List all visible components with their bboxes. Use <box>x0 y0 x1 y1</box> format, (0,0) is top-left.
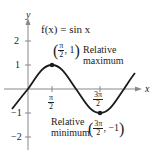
y-tick-2: 2 <box>14 36 19 46</box>
x-arrow-icon <box>135 87 142 92</box>
relative-max-label-2: maximum <box>83 56 124 66</box>
x-axis-label: x <box>145 84 149 94</box>
x-tick-3pi-over-2: 3π2 <box>93 91 103 108</box>
min-annotation: (3π2, −1) <box>88 120 124 137</box>
relative-min-label-2: minimum <box>51 128 90 138</box>
x-tick-pi-over-2: π2 <box>48 94 54 111</box>
y-axis-label: y <box>26 10 30 20</box>
y-tick-m1: −1 <box>11 108 22 118</box>
relative-min-label-1: Relative <box>51 117 84 127</box>
function-label: f(x) = sin x <box>41 24 90 35</box>
max-point <box>50 63 54 67</box>
y-tick-1: 1 <box>15 60 20 70</box>
relative-max-label-1: Relative <box>83 45 116 55</box>
max-annotation: (π2, 1) <box>53 42 80 59</box>
min-point <box>98 111 102 115</box>
y-tick-m2: −2 <box>11 132 22 142</box>
